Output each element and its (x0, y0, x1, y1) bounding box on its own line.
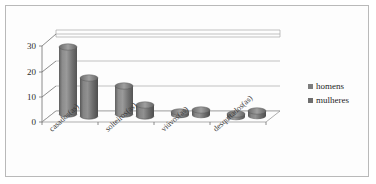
bar-casados-mulheres[interactable] (80, 75, 98, 119)
y-tick-0: 0 (32, 117, 37, 127)
legend-item-homens[interactable]: homens (308, 81, 344, 91)
y-tick-10: 10 (27, 92, 37, 102)
chart-frame: 30 20 10 0 (5, 5, 369, 177)
legend-label-homens: homens (316, 81, 344, 91)
bar-desquitados-mulheres[interactable] (248, 108, 266, 119)
bar-solteiros-mulheres[interactable] (136, 102, 154, 119)
bar-viuvos-mulheres[interactable] (192, 107, 210, 118)
chart-plot-area: 30 20 10 0 (6, 6, 370, 178)
chart-legend: homens mulheres (308, 81, 349, 105)
legend-swatch-homens (308, 84, 313, 89)
y-tick-20: 20 (27, 67, 37, 77)
legend-item-mulheres[interactable]: mulheres (308, 95, 349, 105)
legend-swatch-mulheres (308, 98, 313, 103)
y-tick-30: 30 (27, 41, 37, 51)
legend-label-mulheres: mulheres (316, 95, 349, 105)
y-axis-labels: 30 20 10 0 (27, 41, 37, 127)
